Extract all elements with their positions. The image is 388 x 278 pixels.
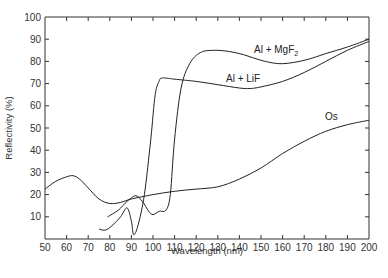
x-tick-label: 160 <box>274 242 291 253</box>
x-axis-label: Wavelength (nm) <box>171 245 243 256</box>
x-tick-label: 60 <box>61 242 73 253</box>
y-tick-label: 60 <box>30 100 42 111</box>
y-tick-label: 40 <box>30 145 42 156</box>
x-axis-ticks: 5060708090100110120130140150160170180190… <box>39 17 377 253</box>
x-tick-label: 200 <box>361 242 378 253</box>
y-tick-label: 80 <box>30 56 42 67</box>
x-tick-label: 80 <box>104 242 116 253</box>
y-tick-label: 100 <box>24 12 41 23</box>
x-tick-label: 180 <box>317 242 334 253</box>
y-tick-label: 70 <box>30 78 42 89</box>
curve-al-mgf2 <box>108 39 369 217</box>
y-axis-ticks: 102030405060708090100 <box>24 12 369 223</box>
x-tick-label: 70 <box>83 242 95 253</box>
x-tick-label: 170 <box>296 242 313 253</box>
y-tick-label: 30 <box>30 167 42 178</box>
x-tick-label: 150 <box>253 242 270 253</box>
label-al-mgf2: Al + MgF2 <box>254 44 298 57</box>
reflectivity-chart: 5060708090100110120130140150160170180190… <box>0 0 388 278</box>
x-tick-label: 190 <box>339 242 356 253</box>
y-tick-label: 10 <box>30 211 42 222</box>
curve-al-lif <box>99 41 369 234</box>
y-tick-label: 50 <box>30 123 42 134</box>
y-tick-label: 20 <box>30 189 42 200</box>
x-tick-label: 90 <box>126 242 138 253</box>
y-tick-label: 90 <box>30 34 42 45</box>
y-axis-label: Reflectivity (%) <box>3 96 14 159</box>
x-tick-label: 100 <box>145 242 162 253</box>
curves <box>45 39 369 234</box>
x-tick-label: 50 <box>39 242 51 253</box>
label-os: Os <box>325 111 338 122</box>
label-al-lif: Al + LiF <box>226 73 260 84</box>
curve-os <box>45 120 369 203</box>
